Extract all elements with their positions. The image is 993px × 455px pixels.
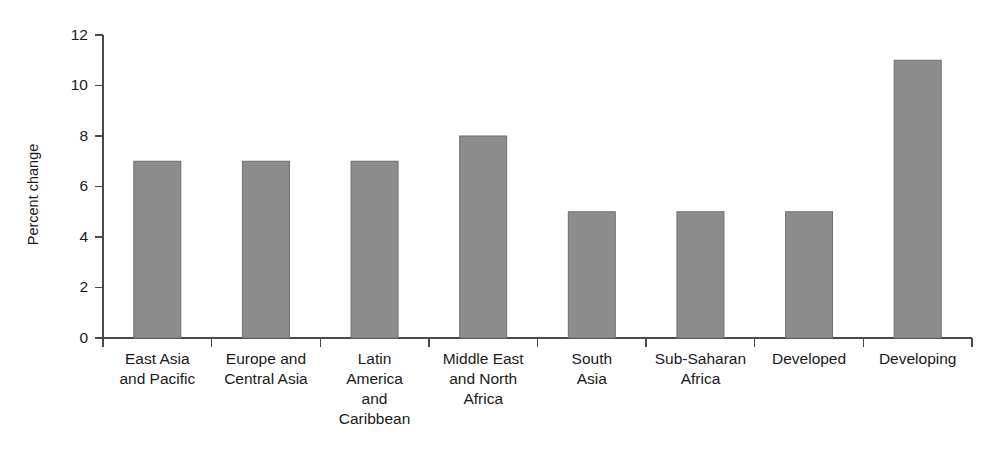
chart-canvas: 024681012Percent changeEast Asiaand Paci… <box>0 0 993 455</box>
x-axis-category-label-line: Central Asia <box>224 370 308 387</box>
bar[interactable] <box>786 212 833 338</box>
x-axis-category-label-line: Developing <box>879 350 957 367</box>
x-axis-category-label: Europe andCentral Asia <box>224 350 308 387</box>
x-axis-category-label-line: and Pacific <box>119 370 195 387</box>
x-axis-category-label: SouthAsia <box>572 350 613 387</box>
x-axis-category-label: Middle Eastand NorthAfrica <box>443 350 525 407</box>
x-axis-category-label-line: Africa <box>463 390 503 407</box>
bar[interactable] <box>351 161 398 338</box>
bar[interactable] <box>568 212 615 338</box>
y-axis-title: Percent change <box>25 144 41 246</box>
x-axis-category-label-line: Europe and <box>226 350 306 367</box>
y-axis-tick-label: 10 <box>71 76 89 93</box>
y-axis-tick-label: 12 <box>71 26 88 43</box>
x-axis-category-label-line: Africa <box>681 370 721 387</box>
x-axis-category-label: East Asiaand Pacific <box>119 350 195 387</box>
bar[interactable] <box>460 136 507 338</box>
x-axis-category-label-line: East Asia <box>125 350 190 367</box>
x-axis-category-label: Developing <box>879 350 957 367</box>
x-axis-category-label: Developed <box>772 350 846 367</box>
y-axis-tick-label: 0 <box>79 329 88 346</box>
x-axis-category-label-line: America <box>346 370 403 387</box>
x-axis-category-label-line: and <box>362 390 388 407</box>
bar[interactable] <box>894 60 941 338</box>
bar[interactable] <box>134 161 181 338</box>
x-axis-category-label-line: Middle East <box>443 350 525 367</box>
x-axis-category-label-line: Sub-Saharan <box>655 350 746 367</box>
bar[interactable] <box>242 161 289 338</box>
x-axis-category-label: LatinAmericaandCaribbean <box>339 350 411 427</box>
bar[interactable] <box>677 212 724 338</box>
x-axis-category-label-line: Developed <box>772 350 846 367</box>
x-axis-category-label-line: and North <box>449 370 517 387</box>
y-axis-tick-label: 6 <box>79 177 88 194</box>
x-axis-category-label-line: Asia <box>577 370 608 387</box>
x-axis-category-label: Sub-SaharanAfrica <box>655 350 746 387</box>
y-axis-tick-label: 8 <box>79 127 88 144</box>
x-axis-category-label-line: Latin <box>358 350 392 367</box>
x-axis-category-label-line: South <box>572 350 613 367</box>
y-axis-tick-label: 4 <box>79 228 88 245</box>
x-axis-category-label-line: Caribbean <box>339 410 411 427</box>
bar-chart: 024681012Percent changeEast Asiaand Paci… <box>0 0 993 455</box>
y-axis-tick-label: 2 <box>79 278 88 295</box>
